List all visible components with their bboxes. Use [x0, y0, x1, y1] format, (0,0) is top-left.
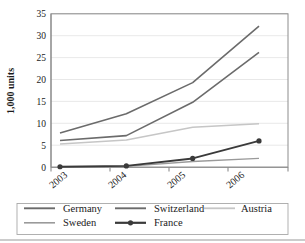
legend-marker-france: [128, 220, 133, 225]
xtick-label: 2003: [47, 169, 69, 190]
legend-label: Switzerland: [154, 203, 205, 214]
x-axis-ticks: 2003 2004 2005 2006: [47, 169, 246, 190]
ytick-label: 5: [41, 141, 46, 151]
chart-figure: 35 30 25 20 15 10 5 0 1,000 units 2003 2…: [0, 0, 305, 243]
ytick-label: 25: [37, 53, 47, 63]
series-line-austria: [60, 124, 259, 144]
legend-label: Germany: [63, 203, 103, 214]
data-series-layer: [57, 26, 261, 169]
series-line-switzerland: [60, 52, 259, 140]
data-point-marker-france: [190, 156, 195, 161]
xtick-label: 2004: [106, 169, 128, 190]
legend-label: Austria: [241, 203, 272, 214]
ytick-label: 30: [37, 31, 47, 41]
line-chart: 35 30 25 20 15 10 5 0 1,000 units 2003 2…: [0, 0, 305, 243]
data-point-marker-france: [57, 164, 62, 169]
legend-label: Sweden: [63, 217, 97, 228]
ytick-label: 10: [37, 119, 47, 129]
x-axis-tickmarks: [51, 167, 288, 171]
y-axis-title: 1,000 units: [5, 68, 16, 114]
ytick-label: 35: [37, 9, 47, 19]
ytick-label: 20: [37, 75, 47, 85]
y-axis-ticks: 35 30 25 20 15 10 5 0: [37, 9, 47, 172]
legend-label: France: [154, 217, 183, 228]
ytick-label: 0: [41, 163, 46, 173]
plot-frame: [51, 14, 288, 167]
ytick-label: 15: [37, 97, 47, 107]
xtick-label: 2005: [165, 169, 187, 190]
series-line-france: [60, 141, 259, 167]
data-point-marker-france: [256, 138, 261, 143]
data-point-marker-france: [124, 163, 129, 168]
xtick-label: 2006: [224, 169, 246, 190]
